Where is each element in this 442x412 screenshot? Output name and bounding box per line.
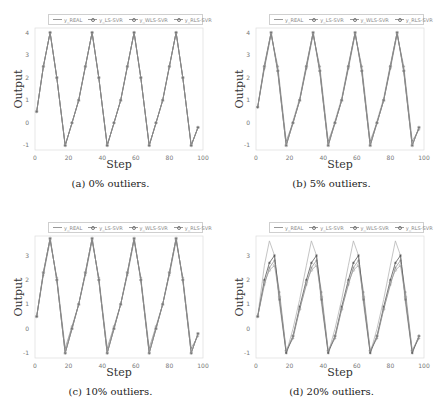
x-tick-label: 20	[65, 362, 73, 369]
x-tick-label: 20	[286, 154, 294, 161]
legend-line-icon	[395, 19, 404, 20]
y-tick-label: 4	[246, 29, 250, 36]
series-y-rls-svr	[35, 31, 199, 147]
series-y-ls-svr	[35, 31, 199, 147]
plot-svg: 3210-1020406080100StepOutput	[0, 208, 221, 412]
y-tick-label: -1	[23, 141, 29, 148]
legend-line-icon	[350, 19, 359, 20]
x-tick-label: 80	[387, 154, 395, 161]
x-tick-label: 0	[33, 362, 37, 369]
y-axis-label: Output	[233, 277, 246, 317]
legend-line-icon	[174, 227, 183, 228]
y-tick-label: 0	[246, 119, 250, 126]
legend-item: y_WLS-SVR	[129, 225, 168, 231]
x-tick-label: 0	[254, 154, 258, 161]
legend-item: y_WLS-SVR	[129, 17, 168, 23]
y-tick-label: 3	[25, 51, 29, 58]
plot-frame	[35, 236, 203, 358]
y-tick-label: 2	[246, 276, 250, 283]
y-axis-label: Output	[12, 277, 25, 317]
legend-label: y_REAL	[285, 17, 303, 23]
series-y-rls-svr	[256, 264, 420, 352]
legend-label: y_WLS-SVR	[361, 225, 389, 231]
legend-line-icon	[274, 227, 283, 228]
x-tick-label: 40	[98, 362, 106, 369]
legend-item: y_RLS-SVR	[395, 225, 433, 231]
legend-item: y_RLS-SVR	[395, 17, 433, 23]
y-tick-label: -1	[244, 141, 250, 148]
legend-line-icon	[129, 19, 138, 20]
x-tick-label: 0	[254, 362, 258, 369]
legend-line-icon	[174, 19, 183, 20]
y-tick-label: 1	[246, 300, 250, 307]
y-tick-label: 1	[25, 300, 29, 307]
legend-label: y_RLS-SVR	[406, 225, 433, 231]
x-tick-label: 100	[197, 154, 209, 161]
legend-label: y_RLS-SVR	[406, 17, 433, 23]
legend-label: y_LS-SVR	[99, 225, 122, 231]
legend-item: y_REAL	[53, 225, 82, 231]
y-tick-label: 0	[246, 325, 250, 332]
y-tick-label: 2	[246, 74, 250, 81]
x-tick-label: 0	[33, 154, 37, 161]
series-y-ls-svr	[256, 33, 420, 142]
series-y-real	[37, 238, 198, 353]
legend-line-icon	[53, 227, 62, 228]
series-y-real	[37, 33, 198, 146]
y-tick-label: -1	[23, 349, 29, 356]
y-tick-label: 3	[246, 51, 250, 58]
legend-label: y_REAL	[64, 225, 82, 231]
y-axis-label: Output	[233, 69, 246, 109]
legend-line-icon	[309, 19, 318, 20]
y-tick-label: 2	[25, 276, 29, 283]
x-tick-label: 100	[418, 362, 430, 369]
figure-caption: (b) 5% outliers.	[221, 178, 442, 189]
figure-caption: (c) 10% outliers.	[0, 386, 221, 397]
legend: y_REALy_LS-SVRy_WLS-SVRy_RLS-SVR	[269, 222, 424, 233]
x-tick-label: 60	[132, 362, 140, 369]
legend-label: y_LS-SVR	[320, 17, 343, 23]
legend-item: y_REAL	[274, 225, 303, 231]
series-y-ls-svr	[35, 240, 199, 350]
series-y-rls-svr	[35, 237, 199, 354]
legend: y_REALy_LS-SVRy_WLS-SVRy_RLS-SVR	[48, 222, 203, 233]
x-tick-label: 100	[197, 362, 209, 369]
legend-item: y_LS-SVR	[88, 225, 122, 231]
x-tick-label: 40	[319, 362, 327, 369]
x-tick-label: 40	[98, 154, 106, 161]
y-tick-label: -1	[244, 349, 250, 356]
x-tick-label: 60	[353, 154, 361, 161]
legend-item: y_REAL	[274, 17, 303, 23]
plot-frame	[256, 28, 424, 150]
plot-svg: 43210-1020406080100StepOutput	[0, 0, 221, 206]
legend-line-icon	[395, 227, 404, 228]
legend-line-icon	[88, 19, 97, 20]
legend-label: y_WLS-SVR	[361, 17, 389, 23]
legend-item: y_REAL	[53, 17, 82, 23]
y-tick-label: 0	[25, 119, 29, 126]
x-tick-label: 100	[418, 154, 430, 161]
plot-svg: 3210-1020406080100StepOutput	[221, 208, 442, 412]
legend-item: y_LS-SVR	[309, 225, 343, 231]
chart-panel-c: 3210-1020406080100StepOutputy_REALy_LS-S…	[0, 208, 221, 412]
legend-line-icon	[309, 227, 318, 228]
y-tick-label: 4	[25, 29, 29, 36]
legend-label: y_REAL	[285, 225, 303, 231]
legend-label: y_REAL	[64, 17, 82, 23]
legend: y_REALy_LS-SVRy_WLS-SVRy_RLS-SVR	[269, 14, 424, 25]
series-y-wls-svr	[35, 237, 199, 354]
legend-label: y_WLS-SVR	[140, 17, 168, 23]
x-axis-label: Step	[106, 158, 132, 171]
series-y-real	[258, 33, 419, 146]
x-tick-label: 80	[166, 362, 174, 369]
series-y-wls-svr	[256, 31, 420, 147]
y-tick-label: 1	[246, 96, 250, 103]
legend: y_REALy_LS-SVRy_WLS-SVRy_RLS-SVR	[48, 14, 203, 25]
x-tick-label: 40	[319, 154, 327, 161]
series-y-ls-svr	[256, 259, 420, 352]
x-axis-label: Step	[327, 366, 353, 379]
x-tick-label: 80	[387, 362, 395, 369]
legend-item: y_RLS-SVR	[174, 225, 212, 231]
legend-label: y_RLS-SVR	[185, 225, 212, 231]
y-axis-label: Output	[12, 69, 25, 109]
